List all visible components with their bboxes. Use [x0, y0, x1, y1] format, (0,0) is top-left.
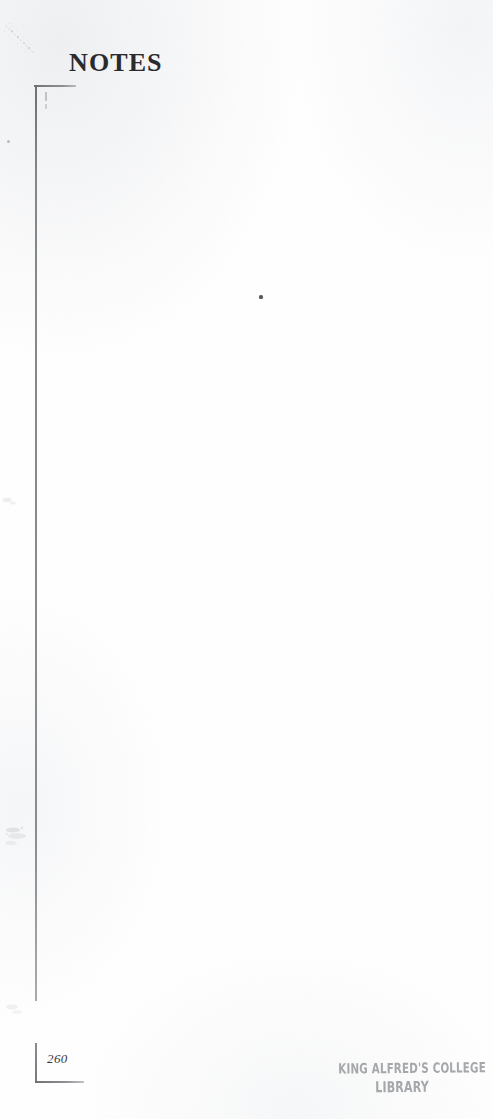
- scan-smudge-icon: [2, 20, 48, 66]
- edge-smudge-icon: [2, 822, 36, 852]
- ink-speck: [45, 104, 47, 109]
- library-stamp-line-2: LIBRARY: [338, 1077, 465, 1097]
- frame-top-rule: [34, 85, 76, 87]
- edge-smudge-icon: [4, 1000, 26, 1018]
- paper-grain-texture: [0, 0, 493, 1119]
- library-stamp: KING ALFRED'S COLLEGE LIBRARY: [316, 1059, 488, 1098]
- library-stamp-line-1: KING ALFRED'S COLLEGE: [338, 1059, 465, 1078]
- frame-left-rule-upper: [35, 85, 37, 1001]
- paper-background: [0, 0, 493, 1119]
- frame-left-rule-lower: [35, 1043, 37, 1083]
- scanned-page: NOTES 260 KING ALFRED'S COLLEGE LIBRARY: [0, 0, 493, 1119]
- ink-speck: [45, 92, 47, 101]
- page-number: 260: [47, 1051, 68, 1067]
- ink-speck: [7, 140, 10, 143]
- frame-bottom-rule: [35, 1081, 84, 1083]
- ink-speck: [259, 295, 263, 299]
- edge-smudge-icon: [1, 494, 19, 508]
- page-title: NOTES: [69, 50, 163, 76]
